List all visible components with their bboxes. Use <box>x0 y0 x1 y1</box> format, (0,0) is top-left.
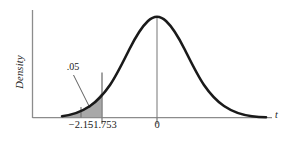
tail-area-annotation: .05 <box>60 62 86 72</box>
x-tick-label-neg-1753: −1.753 <box>81 120 123 131</box>
x-axis-label: t <box>275 110 278 120</box>
density-curve <box>62 17 266 117</box>
y-axis-label: Density <box>0 65 46 79</box>
shaded-tail-area <box>62 92 102 117</box>
x-tick-label-zero: 0 <box>136 120 178 131</box>
t-distribution-density-chart: Density t .05 −2.15 −1.753 0 <box>0 0 289 143</box>
annotation-leader-line <box>74 75 91 108</box>
